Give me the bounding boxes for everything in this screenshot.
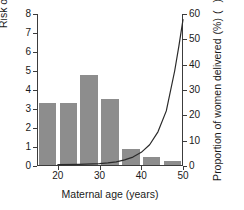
left-tick-label: 8 [25, 9, 31, 19]
right-tick-mark [183, 65, 187, 66]
right-tick-label: 30 [189, 85, 200, 95]
right-tick-label: 40 [189, 60, 200, 70]
left-tick-label: 5 [25, 66, 31, 76]
right-tick-mark [183, 39, 187, 40]
right-tick-mark [183, 90, 187, 91]
right-axis-title-text: Proportion of women delivered [211, 38, 223, 180]
right-axis-title-unit: (%) [211, 18, 223, 34]
left-tick-label: 6 [25, 47, 31, 57]
right-tick-label: 50 [189, 34, 200, 44]
right-tick-mark [183, 141, 187, 142]
left-tick-label: 7 [25, 28, 31, 38]
left-axis-title-text: Risk of Down's syndrome (%) [0, 0, 9, 28]
right-tick-label: 10 [189, 136, 200, 146]
right-tick-label: 60 [189, 9, 200, 19]
x-tick-label: 20 [52, 171, 63, 181]
left-axis-title: Risk of Down's syndrome (%) [0, 0, 10, 28]
left-tick-label: 3 [25, 104, 31, 114]
right-tick-label: 20 [189, 110, 200, 120]
right-paren: ) [211, 0, 223, 3]
right-axis-title: Proportion of women delivered (%) ( ) [210, 14, 224, 166]
right-tick-label: 0 [189, 161, 195, 171]
risk-line-path [58, 20, 183, 165]
left-tick-label: 2 [25, 123, 31, 133]
right-tick-mark [183, 115, 187, 116]
x-tick-label: 50 [177, 171, 188, 181]
x-tick-label: 30 [94, 171, 105, 181]
left-paren: ( [211, 11, 223, 15]
x-tick-label: 40 [136, 171, 147, 181]
x-axis-title: Maternal age (years) [37, 188, 183, 200]
chart-figure: Risk of Down's syndrome (%) Proportion o… [0, 0, 244, 210]
left-tick-label: 4 [25, 85, 31, 95]
right-tick-mark [183, 14, 187, 15]
left-tick-label: 1 [25, 142, 31, 152]
left-tick-mark [33, 166, 37, 167]
left-tick-label: 0 [25, 161, 31, 171]
risk-line-series [37, 14, 183, 166]
plot-area: 012345678 0102030405060 20304050 [37, 14, 183, 166]
